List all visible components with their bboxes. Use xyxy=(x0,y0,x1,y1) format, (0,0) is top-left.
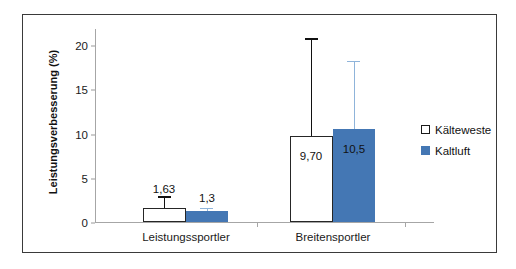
bar-kaltluft-leistungssportler[interactable] xyxy=(186,211,228,223)
value-label-kaltluft-breitensportler: 10,5 xyxy=(343,143,365,155)
error-bar-line-kaltluft-breitensportler xyxy=(354,61,355,129)
value-label-kaelteweste-leistungssportler: 1,63 xyxy=(153,183,175,195)
y-axis-line xyxy=(95,29,96,223)
error-bar-line-kaelteweste-breitensportler xyxy=(311,39,312,136)
value-label-kaelteweste-breitensportler: 9,70 xyxy=(300,150,322,162)
legend-label-kaelteweste: Kälteweste xyxy=(435,124,491,136)
x-axis-line xyxy=(95,222,434,223)
legend-item-kaelteweste[interactable]: Kälteweste xyxy=(421,119,516,140)
chart-legend: Kälteweste Kaltluft xyxy=(421,119,516,161)
y-tick-label-5: 5 xyxy=(82,173,88,185)
value-label-kaltluft-leistungssportler: 1,3 xyxy=(199,192,215,204)
plot-area: 0 5 10 15 20 1,63 1,3 Leistungssportler … xyxy=(95,33,420,223)
error-bar-cap-kaelteweste-leistungssportler xyxy=(158,196,171,197)
bar-kaelteweste-leistungssportler[interactable] xyxy=(143,208,186,222)
legend-label-kaltluft: Kaltluft xyxy=(435,145,470,157)
y-tick-label-20: 20 xyxy=(75,40,88,52)
y-tick-label-10: 10 xyxy=(75,129,88,141)
legend-item-kaltluft[interactable]: Kaltluft xyxy=(421,140,516,161)
white-square-icon xyxy=(421,125,430,134)
category-label-leistungssportler: Leistungssportler xyxy=(142,231,230,243)
category-label-breitensportler: Breitensportler xyxy=(296,231,371,243)
y-tick-mark-10 xyxy=(91,134,95,135)
y-tick-mark-20 xyxy=(91,46,95,47)
category-separator-1 xyxy=(257,223,258,227)
error-bar-cap-kaelteweste-breitensportler xyxy=(305,38,318,39)
y-tick-mark-15 xyxy=(91,90,95,91)
y-axis-title: Leistungsverbesserung (%) xyxy=(44,37,62,207)
y-tick-label-15: 15 xyxy=(75,84,88,96)
chart-figure: Leistungsverbesserung (%) 0 5 10 15 20 1… xyxy=(22,14,497,253)
y-tick-mark-0 xyxy=(91,223,95,224)
blue-square-icon xyxy=(421,146,430,155)
y-tick-label-0: 0 xyxy=(82,217,88,229)
error-bar-cap-kaltluft-leistungssportler xyxy=(200,208,213,209)
error-bar-cap-kaltluft-breitensportler xyxy=(347,61,360,62)
error-bar-line-kaelteweste-leistungssportler xyxy=(164,197,165,208)
y-tick-mark-5 xyxy=(91,178,95,179)
category-separator-2 xyxy=(405,223,406,227)
